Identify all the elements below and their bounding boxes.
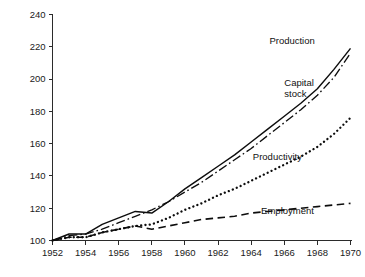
- series-label-capital-stock-line1: Capital: [284, 77, 314, 88]
- y-tick-label: 220: [30, 41, 46, 52]
- x-tick-label: 1960: [174, 247, 195, 258]
- y-tick-label: 120: [30, 203, 46, 214]
- series-annotation-labels: ProductionCapitalstockProductivityEmploy…: [253, 35, 315, 216]
- x-axis-tick-marks: [53, 241, 351, 245]
- x-tick-label: 1962: [207, 247, 228, 258]
- chart-canvas: 100120140160180200220240 195219541956195…: [0, 0, 365, 277]
- x-tick-label: 1968: [307, 247, 328, 258]
- y-axis-tick-marks: [49, 15, 53, 241]
- series-label-employment: Employment: [261, 205, 314, 216]
- series-label-capital-stock-line2: stock: [284, 88, 306, 99]
- x-tick-label: 1952: [42, 247, 63, 258]
- x-tick-label: 1954: [75, 247, 96, 258]
- y-axis-tick-labels: 100120140160180200220240: [30, 9, 46, 246]
- economic-indices-line-chart: 100120140160180200220240 195219541956195…: [0, 0, 365, 277]
- x-axis-tick-labels: 1952195419561958196019621964196619681970: [42, 247, 361, 258]
- y-tick-label: 140: [30, 170, 46, 181]
- y-tick-label: 160: [30, 138, 46, 149]
- y-tick-label: 100: [30, 235, 46, 246]
- x-tick-label: 1970: [340, 247, 361, 258]
- y-tick-label: 180: [30, 106, 46, 117]
- series-line-productivity: [53, 118, 351, 241]
- x-tick-label: 1966: [274, 247, 295, 258]
- x-tick-label: 1956: [108, 247, 129, 258]
- y-tick-label: 200: [30, 73, 46, 84]
- series-label-production: Production: [269, 35, 314, 46]
- x-tick-label: 1958: [141, 247, 162, 258]
- y-tick-label: 240: [30, 9, 46, 20]
- x-tick-label: 1964: [241, 247, 262, 258]
- series-label-productivity: Productivity: [253, 151, 302, 162]
